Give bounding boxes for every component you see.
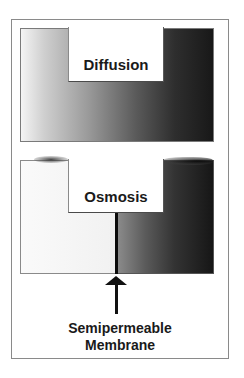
arrow-shaft <box>115 284 118 314</box>
osmosis-label: Osmosis <box>68 188 164 205</box>
membrane-caption-line2: Membrane <box>11 337 229 353</box>
semipermeable-membrane <box>115 213 118 274</box>
right-meniscus <box>163 157 213 165</box>
left-meniscus <box>34 156 68 163</box>
diffusion-label: Diffusion <box>68 56 164 73</box>
membrane-caption-line1: Semipermeable <box>11 320 229 336</box>
diffusion-label-notch <box>68 27 164 82</box>
